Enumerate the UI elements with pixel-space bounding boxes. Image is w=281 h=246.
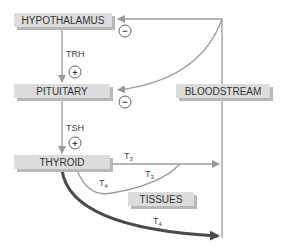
bloodstream-box: BLOODSTREAM — [176, 84, 273, 101]
svg-text:+: + — [72, 139, 77, 149]
svg-text:T4: T4 — [99, 178, 109, 189]
thyroid-label: THYROID — [40, 157, 85, 168]
svg-text:−: − — [122, 26, 127, 36]
svg-text:T3: T3 — [145, 169, 155, 180]
t4-main-label: T4 — [153, 216, 163, 227]
t4-tissue-label: T4 — [99, 178, 109, 189]
tissues-label: TISSUES — [140, 194, 183, 205]
pituitary-box: PITUITARY — [14, 84, 113, 101]
bloodstream-label: BLOODSTREAM — [185, 86, 262, 97]
hypothalamus-label: HYPOTHALAMUS — [22, 15, 105, 26]
stimulate-tsh-icon: + — [69, 137, 81, 149]
stimulate-trh-icon: + — [69, 66, 81, 78]
svg-text:T3: T3 — [124, 151, 134, 162]
thyroid-box: THYROID — [14, 155, 113, 172]
t3-tissue-label: T3 — [145, 169, 155, 180]
t3-main-label: T3 — [124, 151, 134, 162]
tsh-label: TSH — [66, 123, 84, 133]
hypothalamus-box: HYPOTHALAMUS — [14, 13, 115, 30]
svg-text:−: − — [122, 97, 127, 107]
tissues-box: TISSUES — [128, 192, 197, 209]
trh-label: TRH — [66, 49, 85, 59]
inhibit-hypothalamus-icon: − — [119, 25, 131, 37]
pituitary-label: PITUITARY — [36, 86, 88, 97]
thyroid-axis-diagram: HYPOTHALAMUS PITUITARY BLOODSTREAM THYRO… — [0, 0, 281, 246]
inhibit-pituitary-icon: − — [119, 96, 131, 108]
svg-text:T4: T4 — [153, 216, 163, 227]
svg-text:+: + — [72, 68, 77, 78]
